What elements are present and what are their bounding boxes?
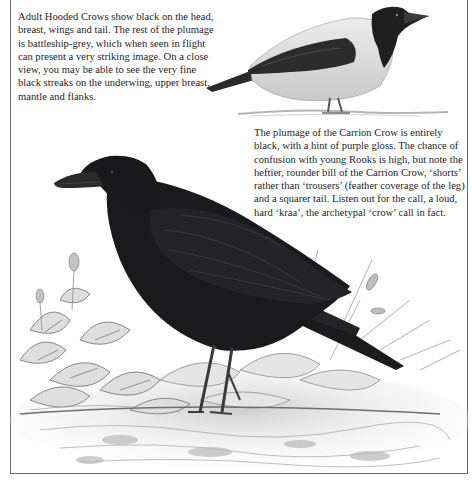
carrion-crow-illustration bbox=[0, 0, 472, 484]
